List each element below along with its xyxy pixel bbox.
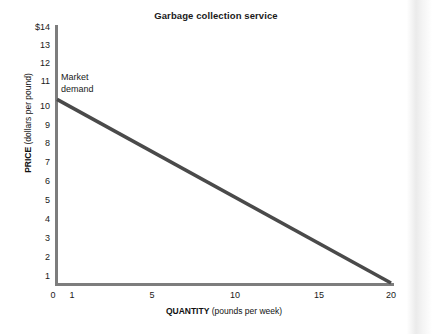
series-layer bbox=[0, 0, 432, 334]
chart-figure: Garbage collection service $14 13 12 11 … bbox=[0, 0, 432, 334]
market-demand-line bbox=[57, 99, 391, 283]
market-demand-annotation: Market demand bbox=[61, 72, 94, 95]
